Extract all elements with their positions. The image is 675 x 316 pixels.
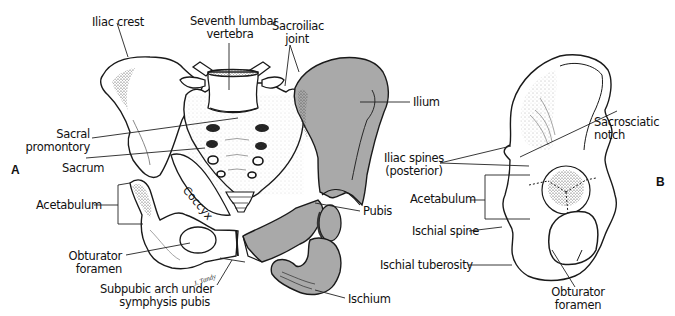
- panel-label-a: A: [11, 163, 20, 177]
- label-sacroiliac-joint: Sacroiliac joint: [272, 20, 322, 45]
- label-subpubic-arch: Subpubic arch under symphysis pubis: [100, 283, 210, 308]
- label-obturator-foramen-b: Obturator foramen: [548, 286, 608, 311]
- label-sacrum: Sacrum: [62, 162, 104, 175]
- label-acetabulum-b: Acetabulum: [410, 193, 476, 206]
- label-ischium: Ischium: [348, 293, 391, 306]
- label-pubis: Pubis: [363, 205, 392, 218]
- lateral-os-coxae: [503, 55, 616, 281]
- label-iliac-crest: Iliac crest: [92, 16, 144, 29]
- label-ischial-spine: Ischial spine: [412, 225, 479, 238]
- label-iliac-spines-posterior: Iliac spines (posterior): [383, 152, 445, 177]
- coccyx: [226, 192, 254, 212]
- label-seventh-lumbar-vertebra: Seventh lumbar vertebra: [190, 15, 270, 40]
- panel-label-b: B: [656, 175, 665, 189]
- label-obturator-foramen-a: Obturator foramen: [62, 250, 122, 275]
- label-sacral-promontory: Sacral promontory: [20, 128, 90, 153]
- pelvis-illustration: A B Iliac crest Seventh lumbar vertebra …: [0, 0, 675, 316]
- right-ilium-highlighted: [294, 58, 388, 205]
- label-ischial-tuberosity: Ischial tuberosity: [380, 259, 473, 272]
- label-sacrosciatic-notch: Sacrosciatic notch: [594, 116, 659, 141]
- label-ilium: Ilium: [413, 96, 440, 109]
- label-acetabulum-a: Acetabulum: [36, 199, 102, 212]
